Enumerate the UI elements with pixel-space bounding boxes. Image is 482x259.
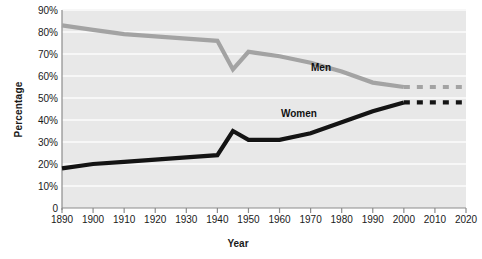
series-label-women: Women	[281, 108, 317, 119]
plot-background	[62, 10, 466, 208]
series-label-men: Men	[311, 62, 331, 73]
